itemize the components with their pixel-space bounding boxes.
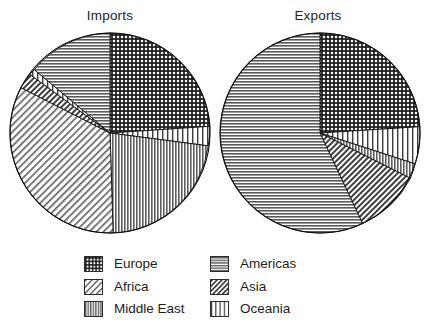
legend-item-americas[interactable]: Americas xyxy=(210,253,338,275)
imports-slice-middle-east xyxy=(110,133,208,233)
legend-label-europe: Europe xyxy=(114,256,158,272)
asia-swatch-icon xyxy=(210,279,229,295)
legend-item-asia[interactable]: Asia xyxy=(210,276,338,298)
imports-slice-europe xyxy=(110,33,210,133)
middle-east-swatch-icon xyxy=(84,301,103,317)
legend-item-africa[interactable]: Africa xyxy=(84,276,212,298)
exports-pie-chart xyxy=(217,30,423,236)
legend-item-middle-east[interactable]: Middle East xyxy=(84,298,212,320)
legend-label-asia: Asia xyxy=(240,279,266,295)
oceania-swatch-icon xyxy=(210,301,229,317)
legend-label-middle-east: Middle East xyxy=(114,301,185,317)
exports-pie-svg xyxy=(217,30,423,236)
legend-label-africa: Africa xyxy=(114,279,149,295)
imports-pie-svg xyxy=(7,30,213,236)
imports-pie-chart xyxy=(7,30,213,236)
exports-slices xyxy=(220,33,420,233)
legend-item-europe[interactable]: Europe xyxy=(84,253,212,275)
legend-column-right: Americas Asia xyxy=(210,253,338,321)
exports-slice-europe xyxy=(320,33,420,133)
imports-slices xyxy=(10,33,210,233)
exports-chart-title: Exports xyxy=(218,8,418,24)
legend: Europe Africa xyxy=(84,253,346,321)
legend-label-oceania: Oceania xyxy=(240,301,290,317)
pie-chart-figure: Imports Exports xyxy=(0,0,424,331)
legend-label-americas: Americas xyxy=(240,256,296,272)
europe-swatch-icon xyxy=(84,256,103,272)
legend-column-left: Europe Africa xyxy=(84,253,212,321)
imports-chart-title: Imports xyxy=(10,8,210,24)
legend-item-oceania[interactable]: Oceania xyxy=(210,298,338,320)
africa-swatch-icon xyxy=(84,279,103,295)
americas-swatch-icon xyxy=(210,256,229,272)
